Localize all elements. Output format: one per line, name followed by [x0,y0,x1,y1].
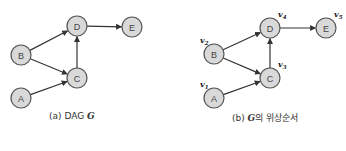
node-b: B [204,44,224,64]
edge-b-c [223,58,260,74]
node-e: E [122,17,142,37]
order-label-d: v4 [278,9,287,20]
svg-text:A: A [211,94,217,104]
order-label-c: v3 [278,59,287,70]
order-label-a: v1 [200,79,208,90]
svg-text:A: A [18,94,24,104]
svg-text:D: D [74,22,81,32]
svg-text:B: B [18,51,24,61]
edge-b-d [223,32,260,49]
caption-b-prefix: (b) [232,113,248,123]
caption-a-symbol: G [87,111,95,121]
node-d: D [260,18,280,38]
edge-a-c [223,82,260,95]
edge-b-c [30,59,67,74]
svg-text:D: D [267,24,274,34]
svg-text:C: C [267,74,274,84]
svg-text:B: B [211,50,217,60]
edge-a-c [30,82,67,95]
edge-d-e [87,26,122,27]
node-e: E [316,18,336,38]
order-label-b: v2 [200,35,209,46]
svg-text:C: C [74,74,81,84]
caption-b-suffix: 의 위상순서 [255,113,298,123]
svg-text:E: E [323,24,329,34]
order-label-e: v5 [334,9,343,20]
node-a: A [11,88,31,108]
svg-text:E: E [129,23,135,33]
node-c: C [260,68,280,88]
dag-figure: ABCDEABCDE v1v2v3v4v5 [0,0,346,151]
node-b: B [11,45,31,65]
caption-panel-b: (b) G의 위상순서 [232,111,298,124]
edge-b-d [30,31,68,51]
caption-a-prefix: (a) DAG [49,111,87,121]
caption-panel-a: (a) DAG G [49,111,95,121]
node-d: D [67,16,87,36]
node-a: A [204,88,224,108]
node-c: C [67,68,87,88]
